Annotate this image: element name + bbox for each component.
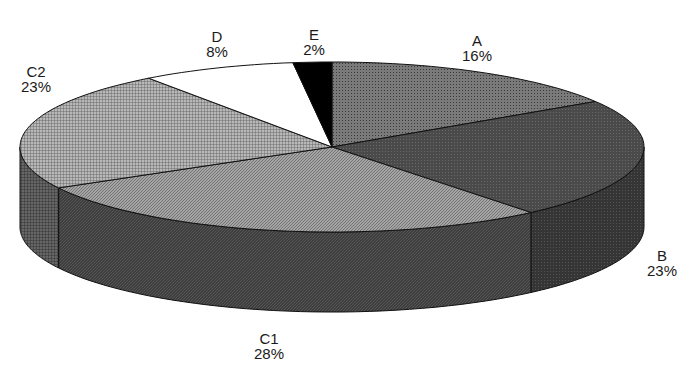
slice-percent: 16% [462,48,492,63]
slice-percent: 28% [254,346,284,361]
slice-name: C2 [21,64,51,79]
slice-name: A [462,33,492,48]
slice-name: C1 [254,331,284,346]
slice-label-a: A16% [462,33,492,63]
slice-percent: 23% [647,263,677,278]
slice-label-e: E2% [303,27,325,57]
slice-label-c2: C223% [21,64,51,94]
slice-label-d: D8% [206,29,228,59]
slice-label-b: B23% [647,248,677,278]
pie-top-faces [20,62,644,232]
slice-percent: 8% [206,44,228,59]
slice-name: E [303,27,325,42]
slice-name: D [206,29,228,44]
slice-percent: 2% [303,42,325,57]
slice-label-c1: C128% [254,331,284,361]
slice-name: B [647,248,677,263]
slice-percent: 23% [21,79,51,94]
pie-chart-3d [0,0,695,375]
